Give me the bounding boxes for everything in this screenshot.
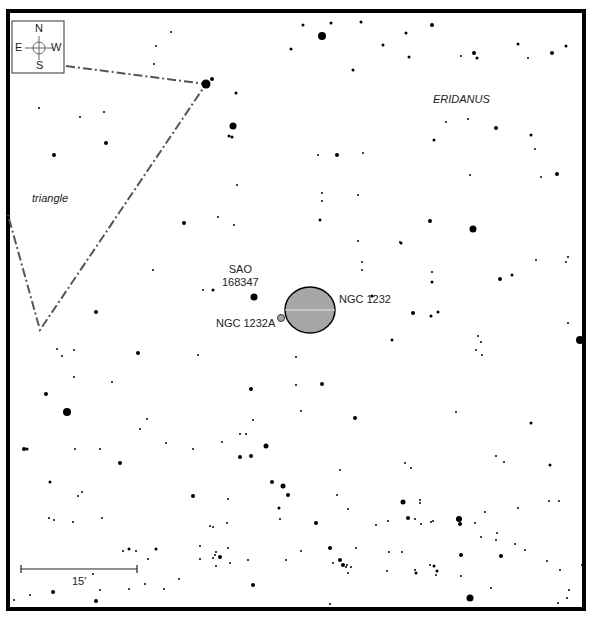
star bbox=[408, 56, 411, 59]
star bbox=[264, 444, 269, 449]
star bbox=[514, 543, 516, 545]
star bbox=[281, 484, 286, 489]
star bbox=[352, 69, 355, 72]
star bbox=[495, 539, 497, 541]
star bbox=[375, 524, 377, 526]
star bbox=[38, 107, 40, 109]
star bbox=[401, 551, 403, 553]
star bbox=[286, 493, 290, 497]
star bbox=[347, 508, 349, 510]
star bbox=[210, 77, 214, 81]
star bbox=[247, 559, 249, 561]
star bbox=[73, 349, 75, 351]
star bbox=[215, 551, 217, 553]
star bbox=[329, 603, 331, 605]
star bbox=[495, 455, 497, 457]
star bbox=[467, 595, 474, 602]
star bbox=[511, 274, 514, 277]
star bbox=[549, 464, 552, 467]
star bbox=[391, 339, 394, 342]
star bbox=[221, 441, 223, 443]
star bbox=[335, 153, 339, 157]
star bbox=[360, 21, 363, 24]
star bbox=[386, 570, 388, 572]
star bbox=[567, 322, 569, 324]
star bbox=[476, 57, 479, 60]
star bbox=[227, 547, 229, 549]
star bbox=[92, 573, 94, 575]
star bbox=[566, 597, 568, 599]
star bbox=[63, 408, 71, 416]
star bbox=[559, 569, 561, 571]
star bbox=[355, 547, 357, 549]
star bbox=[94, 310, 98, 314]
star bbox=[460, 55, 462, 57]
star bbox=[565, 45, 568, 48]
star bbox=[79, 116, 81, 118]
star bbox=[103, 111, 105, 113]
star bbox=[467, 118, 469, 120]
star bbox=[499, 554, 503, 558]
star bbox=[285, 559, 287, 561]
scale-bar bbox=[21, 565, 137, 573]
star bbox=[548, 500, 550, 502]
star bbox=[251, 583, 255, 587]
star bbox=[101, 517, 103, 519]
label-sao-line1: SAO bbox=[222, 263, 259, 276]
star bbox=[295, 356, 297, 358]
star bbox=[300, 410, 302, 412]
star bbox=[437, 311, 440, 314]
star bbox=[295, 384, 297, 386]
star bbox=[197, 354, 199, 356]
star bbox=[146, 418, 148, 420]
star bbox=[135, 550, 137, 552]
star bbox=[228, 135, 231, 138]
star bbox=[170, 31, 172, 33]
star bbox=[530, 134, 533, 137]
star bbox=[152, 269, 154, 271]
star bbox=[568, 589, 570, 591]
star bbox=[470, 226, 477, 233]
star-sao-168347 bbox=[251, 294, 258, 301]
star bbox=[328, 546, 332, 550]
star bbox=[410, 467, 412, 469]
star bbox=[455, 411, 457, 413]
star bbox=[56, 348, 58, 350]
star bbox=[44, 392, 48, 396]
star bbox=[361, 269, 363, 271]
star bbox=[49, 481, 52, 484]
star bbox=[13, 599, 15, 601]
star bbox=[419, 499, 421, 501]
star bbox=[431, 281, 434, 284]
galaxy-ngc-1232a bbox=[278, 315, 285, 322]
label-ngc-1232a: NGC 1232A bbox=[216, 317, 275, 330]
star bbox=[503, 461, 505, 463]
star bbox=[405, 32, 408, 35]
star bbox=[474, 522, 476, 524]
star bbox=[155, 548, 158, 551]
label-sao-168347: SAO 168347 bbox=[222, 263, 259, 288]
star bbox=[245, 433, 247, 435]
star bbox=[330, 22, 333, 25]
star bbox=[53, 591, 55, 593]
star bbox=[29, 594, 31, 596]
label-ngc-1232: NGC 1232 bbox=[339, 293, 391, 306]
star bbox=[433, 139, 436, 142]
star bbox=[496, 532, 498, 534]
star bbox=[401, 500, 406, 505]
star bbox=[81, 491, 83, 493]
star bbox=[279, 518, 281, 520]
star bbox=[74, 448, 76, 450]
star bbox=[238, 455, 242, 459]
star bbox=[128, 548, 131, 551]
compass-west-label: W bbox=[51, 41, 61, 54]
star bbox=[400, 242, 403, 245]
star bbox=[357, 194, 359, 196]
star bbox=[345, 566, 347, 568]
star bbox=[428, 219, 432, 223]
star bbox=[77, 495, 79, 497]
star bbox=[581, 564, 583, 566]
star bbox=[212, 557, 214, 559]
star bbox=[387, 520, 389, 522]
scale-bar-label: 15' bbox=[72, 575, 86, 588]
